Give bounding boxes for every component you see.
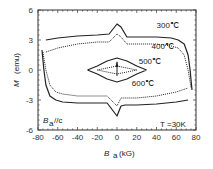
hysteresis-curves [42,24,192,116]
y-axis-label: M (emu) [12,53,21,87]
x-tick-label: -40 [72,133,84,142]
curve-label: 300℃ [157,21,179,30]
temperature-annotation: T =30K [160,120,187,129]
arrow-head-icon [116,61,119,67]
x-tick-label: 20 [132,133,141,142]
hysteresis-chart: -80-60-40-20020406080630-3-6 300℃400℃500… [0,0,213,169]
x-axis-symbol: B [104,149,110,158]
x-tick-label: -20 [91,133,103,142]
curve-labels: 300℃400℃500℃600℃ [132,21,179,88]
field-direction-text: //c [54,116,62,125]
x-tick-label: -80 [32,133,44,142]
x-axis-subscript: a [113,151,118,160]
x-tick-label: 60 [172,133,181,142]
field-direction-annotation: B a //c [43,116,62,128]
y-tick-label: -6 [26,126,34,135]
x-tick-label: 0 [115,133,120,142]
y-axis-unit: (emu) [12,53,21,74]
x-tick-label: -60 [52,133,64,142]
x-axis-label: B a (kG) [104,149,135,160]
x-tick-label: 80 [192,133,201,142]
y-tick-label: 0 [29,66,34,75]
y-tick-label: -3 [26,96,34,105]
x-axis-unit: (kG) [119,149,135,158]
curve-label: 500℃ [139,57,161,66]
y-tick-label: 6 [29,6,34,15]
curve-label: 400℃ [152,42,174,51]
curve-label: 600℃ [132,79,154,88]
svg-text:M (emu): M (emu) [12,53,21,87]
y-tick-label: 3 [29,36,34,45]
x-tick-label: 40 [152,133,161,142]
y-axis-symbol: M [12,80,21,87]
